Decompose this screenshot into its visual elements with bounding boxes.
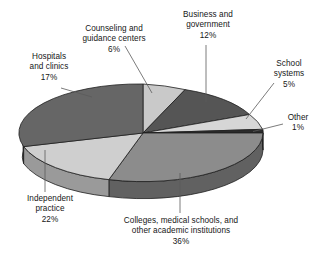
pie-label-business: Business and government 12% — [166, 10, 250, 41]
pie-label-colleges-line1: Colleges, medical schools, and — [100, 216, 262, 226]
pie-label-business-line1: Business and — [166, 10, 250, 20]
pie-label-hospitals-line1: Hospitals — [14, 52, 84, 62]
pie-top-face — [19, 84, 263, 182]
pie-label-school-systems-line1: School — [258, 59, 320, 69]
pie-value-colleges: 36% — [100, 237, 262, 247]
pie-label-counseling: Counseling and guidance centers 6% — [66, 24, 162, 55]
pie-value-business: 12% — [166, 31, 250, 41]
pie-chart: Counseling and guidance centers 6% Busin… — [0, 0, 331, 257]
pie-label-school-systems: School systems 5% — [258, 59, 320, 90]
pie-value-hospitals: 17% — [14, 73, 84, 83]
pie-label-business-line2: government — [166, 20, 250, 30]
pie-label-independent-practice: Independent practice 22% — [8, 194, 92, 225]
pie-value-other: 1% — [274, 123, 322, 133]
pie-label-colleges: Colleges, medical schools, and other aca… — [100, 216, 262, 247]
pie-label-counseling-line1: Counseling and — [66, 24, 162, 34]
pie-label-independent-practice-line1: Independent — [8, 194, 92, 204]
pie-label-independent-practice-line2: practice — [8, 204, 92, 214]
pie-value-independent-practice: 22% — [8, 215, 92, 225]
pie-label-counseling-line2: guidance centers — [66, 34, 162, 44]
pie-label-colleges-line2: other academic institutions — [100, 226, 262, 236]
pie-value-school-systems: 5% — [258, 80, 320, 90]
pie-label-hospitals-line2: and clinics — [14, 62, 84, 72]
pie-label-school-systems-line2: systems — [258, 69, 320, 79]
pie-label-other-line1: Other — [274, 113, 322, 123]
pie-label-other: Other 1% — [274, 113, 322, 134]
pie-label-hospitals: Hospitals and clinics 17% — [14, 52, 84, 83]
